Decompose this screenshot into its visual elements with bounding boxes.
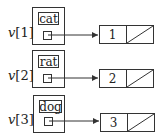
index-label-1: v[1]: [8, 26, 34, 40]
node-value-2: 2: [99, 73, 126, 85]
record-name-3: dog: [39, 101, 62, 113]
node-value-1: 1: [99, 29, 126, 41]
record-name-2: rat: [38, 56, 59, 68]
record-name-1: cat: [38, 13, 59, 25]
node-value-3: 3: [100, 117, 127, 129]
index-label-3: v[3]: [8, 113, 34, 127]
index-label-2: v[2]: [8, 69, 34, 83]
